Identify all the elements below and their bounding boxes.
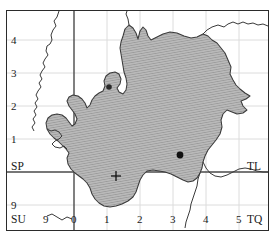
map-plot-area: 4 3 2 1 9 0 1 2 3 4 5 9 SP TL SU TQ — [7, 11, 268, 230]
x-tick-1: 1 — [104, 214, 110, 225]
x-tick-4: 4 — [203, 214, 209, 225]
grid-square-tl: TL — [247, 161, 261, 173]
dot-marker — [177, 152, 184, 159]
y-tick-3: 3 — [11, 68, 17, 79]
y-tick-4: 4 — [11, 35, 17, 46]
y-tick-1: 1 — [11, 134, 17, 145]
range-polygon — [46, 25, 250, 207]
x-tick-9-lower: 9 — [43, 214, 49, 225]
x-tick-0: 0 — [71, 214, 77, 225]
map-figure: 4 3 2 1 9 0 1 2 3 4 5 9 SP TL SU TQ — [0, 0, 275, 241]
y-tick-9-lower: 9 — [11, 200, 17, 211]
coastline — [32, 11, 59, 131]
grid-square-sp: SP — [11, 161, 24, 173]
grid-square-su: SU — [11, 214, 26, 226]
map-canvas — [7, 11, 268, 230]
grid-square-tq: TQ — [247, 214, 262, 226]
y-tick-2: 2 — [11, 101, 17, 112]
x-tick-2: 2 — [137, 214, 143, 225]
x-tick-5: 5 — [236, 214, 242, 225]
x-tick-3: 3 — [170, 214, 176, 225]
distribution-range — [46, 25, 250, 207]
dot-marker-secondary — [106, 84, 112, 90]
